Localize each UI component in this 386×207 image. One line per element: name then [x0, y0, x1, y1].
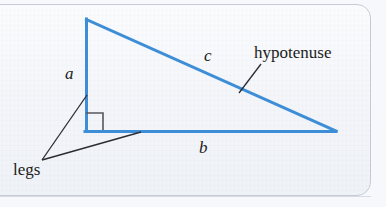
diagram-root: a b c hypotenuse legs [0, 0, 386, 207]
triangle-shape [85, 19, 336, 132]
hypotenuse-leader-line [239, 64, 261, 93]
right-triangle-figure [0, 0, 386, 207]
right-angle-marker-icon [86, 113, 103, 130]
leg-a-label: a [65, 65, 74, 82]
hypotenuse-letter-label: c [204, 47, 212, 64]
leg-b-label: b [199, 139, 208, 156]
hypotenuse-word-label: hypotenuse [254, 44, 331, 61]
legs-leader-line-to-b [42, 132, 141, 160]
legs-word-label: legs [13, 161, 40, 178]
hypotenuse-line [87, 20, 337, 132]
legs-leader-line-to-a [42, 95, 87, 160]
